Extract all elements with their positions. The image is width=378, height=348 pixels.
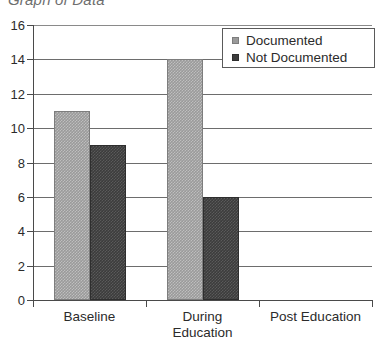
y-axis-tick-label: 12 [1,88,25,101]
y-axis-tick-label: 8 [1,157,25,170]
bar [203,197,239,300]
y-axis-tick-label: 16 [1,19,25,32]
legend-item-not-documented: Not Documented [232,49,374,66]
y-axis-tick-label: 2 [1,260,25,273]
bar [54,111,90,300]
x-axis-tick [372,300,373,307]
bar [90,145,126,300]
x-axis-category-label: During Education [146,309,259,341]
y-axis-tick-label: 0 [1,294,25,307]
x-axis-category-label: Baseline [33,309,146,325]
y-axis-tick-labels: 0246810121416 [0,0,25,348]
x-axis-tick [259,300,260,307]
x-axis-tick [146,300,147,307]
legend-swatch-documented-icon [232,37,239,44]
y-axis-tick-label: 6 [1,191,25,204]
x-axis-category-label: Post Education [259,309,372,325]
y-axis-tick-label: 4 [1,225,25,238]
y-axis-tick-label: 10 [1,122,25,135]
x-axis-tick [33,300,34,307]
legend-item-documented: Documented [232,32,374,49]
legend-label-not-documented: Not Documented [246,51,347,65]
legend-label-documented: Documented [246,34,323,48]
chart-screenshot: Graph of Data 0246810121416 BaselineDuri… [0,0,378,348]
x-axis-line [33,300,372,301]
bar [167,59,203,300]
legend-swatch-not-documented-icon [232,54,239,61]
y-axis-tick-label: 14 [1,53,25,66]
chart-legend: Documented Not Documented [222,28,375,68]
